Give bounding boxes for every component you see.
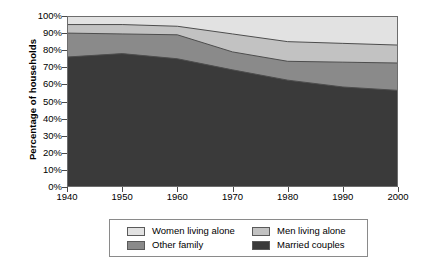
y-axis-tick-label: 100% xyxy=(20,11,62,21)
y-axis-tick-label: 90% xyxy=(20,28,62,38)
y-axis-tick-label: 50% xyxy=(20,97,62,107)
legend-swatch-icon xyxy=(252,241,270,250)
y-axis-tick-label: 80% xyxy=(20,45,62,55)
y-axis-tick-label: 70% xyxy=(20,62,62,72)
x-axis-tick-label: 1970 xyxy=(211,191,255,202)
x-axis-tick-label: 1950 xyxy=(100,191,144,202)
x-axis-tick-label: 1990 xyxy=(321,191,365,202)
legend-item-women-living-alone: Women living alone xyxy=(110,224,246,238)
y-axis-tick-label: 30% xyxy=(20,131,62,141)
legend-row: Other familyMarried couples xyxy=(110,238,367,252)
chart-legend: Women living aloneMen living aloneOther … xyxy=(109,219,368,257)
legend-item-other-family: Other family xyxy=(110,238,246,252)
legend-item-label: Men living alone xyxy=(277,226,346,236)
y-axis-tick-label: 60% xyxy=(20,79,62,89)
legend-swatch-icon xyxy=(127,241,145,250)
x-axis-tick-label: 1940 xyxy=(45,191,89,202)
y-axis-tick-label: 10% xyxy=(20,165,62,175)
x-axis-tick-label: 1980 xyxy=(266,191,310,202)
stacked-area-series-group xyxy=(67,16,398,187)
legend-swatch-icon xyxy=(252,227,270,236)
legend-row: Women living aloneMen living alone xyxy=(110,224,367,238)
legend-swatch-icon xyxy=(127,227,145,236)
legend-item-label: Married couples xyxy=(277,240,345,250)
legend-item-label: Women living alone xyxy=(152,226,235,236)
legend-item-label: Other family xyxy=(152,240,203,250)
legend-item-men-living-alone: Men living alone xyxy=(246,224,367,238)
plot-area xyxy=(67,16,398,187)
stacked-area-chart-figure: Percentage of households 0%10%20%30%40%5… xyxy=(0,0,439,269)
x-axis-tick-label: 1960 xyxy=(155,191,199,202)
x-axis-tick-label: 2000 xyxy=(376,191,420,202)
legend-item-married-couples: Married couples xyxy=(246,238,367,252)
y-axis-tick-label: 20% xyxy=(20,148,62,158)
y-axis-tick-label: 40% xyxy=(20,114,62,124)
